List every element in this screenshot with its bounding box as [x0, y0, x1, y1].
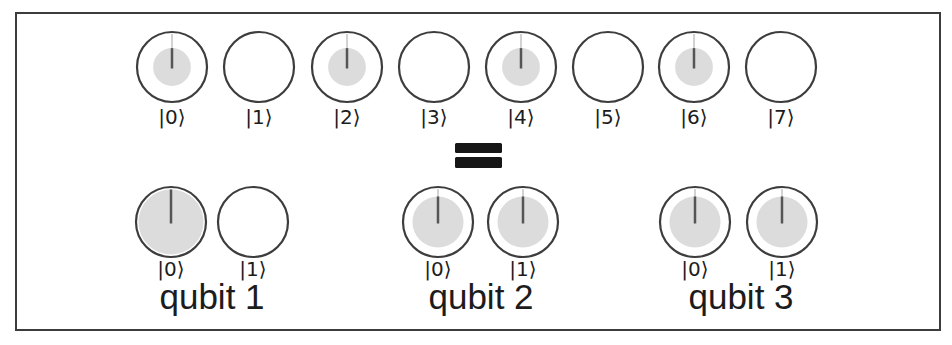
state-circle-outline: [746, 32, 816, 102]
basis-state-label: |3⟩: [420, 105, 447, 129]
equals-sign: [455, 143, 502, 168]
basis-state-label: |6⟩: [680, 105, 707, 129]
qubit-group-3: qubit 3: [688, 277, 793, 316]
equals-sign-bar-bottom: [455, 157, 502, 168]
basis-state-label: |0⟩: [157, 257, 184, 281]
quantum-state-diagram: |0⟩|1⟩|2⟩|3⟩|4⟩|5⟩|6⟩|7⟩qubit 1|0⟩|1⟩qub…: [0, 0, 952, 345]
basis-state-label: |5⟩: [594, 105, 621, 129]
qubit-name-label: qubit 3: [688, 277, 793, 316]
register-state-7: [746, 32, 816, 102]
register-state-3: [399, 32, 469, 102]
figure-canvas: |0⟩|1⟩|2⟩|3⟩|4⟩|5⟩|6⟩|7⟩qubit 1|0⟩|1⟩qub…: [0, 0, 952, 345]
state-circle-outline: [224, 32, 294, 102]
state-circle-outline: [218, 187, 288, 257]
basis-state-label: |1⟩: [768, 257, 795, 281]
qubit-group-2: qubit 2: [428, 277, 533, 316]
basis-state-label: |0⟩: [158, 105, 185, 129]
basis-state-label: |1⟩: [509, 257, 536, 281]
register-state-6: [659, 32, 729, 102]
qubit-3-state-1: [747, 187, 817, 257]
state-circle-outline: [399, 32, 469, 102]
qubit-3-state-0: [660, 187, 730, 257]
qubit-2-state-1: [488, 187, 558, 257]
basis-state-label: |2⟩: [333, 105, 360, 129]
qubit-1-state-0: [136, 187, 206, 257]
qubit-name-label: qubit 1: [159, 277, 264, 316]
qubit-1-state-1: [218, 187, 288, 257]
basis-state-label: |7⟩: [767, 105, 794, 129]
qubit-name-label: qubit 2: [428, 277, 533, 316]
qubit-2-state-0: [403, 187, 473, 257]
basis-state-label: |1⟩: [245, 105, 272, 129]
basis-state-label: |0⟩: [424, 257, 451, 281]
register-state-2: [312, 32, 382, 102]
register-state-1: [224, 32, 294, 102]
register-state-5: [573, 32, 643, 102]
basis-state-label: |1⟩: [239, 257, 266, 281]
register-state-0: [137, 32, 207, 102]
basis-state-label: |4⟩: [507, 105, 534, 129]
register-state-4: [486, 32, 556, 102]
basis-state-label: |0⟩: [681, 257, 708, 281]
state-circle-outline: [573, 32, 643, 102]
qubit-group-1: qubit 1: [159, 277, 264, 316]
equals-sign-bar-top: [455, 143, 502, 153]
